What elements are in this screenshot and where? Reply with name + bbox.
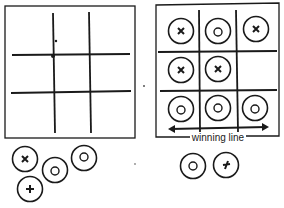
winning-line-label: winning line [191,132,245,143]
tic-tac-toe-diagram: winning line [0,0,284,208]
piece-o [181,154,206,179]
piece-x [169,19,194,44]
piece-x [244,17,269,42]
piece-plus [18,177,43,202]
piece-x [206,57,231,82]
piece-o [72,146,97,171]
piece-o [206,96,231,121]
piece-x [13,147,38,172]
right-pieces [181,153,239,179]
piece-plus [214,153,239,178]
piece-o [169,97,194,122]
piece-o [43,158,68,183]
piece-o [243,96,268,121]
stray-dot [134,163,136,165]
piece-o [206,19,231,44]
stray-dot [143,85,145,87]
left-pieces [13,146,97,202]
left-board [5,6,135,138]
right-board [156,3,279,137]
piece-x [169,58,194,83]
